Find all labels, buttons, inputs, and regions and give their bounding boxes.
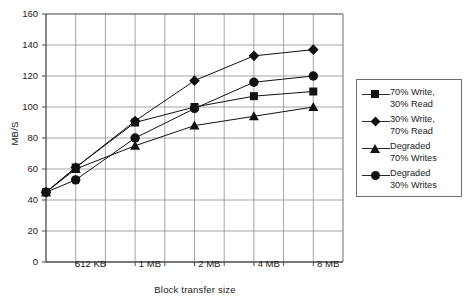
y-tick-label: 20 [10,225,38,236]
legend-item-label: Degraded70% Writes [390,141,437,164]
x-tick-label: 512 KB [63,258,119,269]
y-axis-title: MB/S [9,104,20,164]
legend-label-line2: 70% Writes [390,153,437,165]
legend-item[interactable]: 70% Write,30% Read [357,87,461,114]
legend-square-icon [362,88,390,101]
legend-box: 70% Write,30% Read30% Write,70% ReadDegr… [356,79,462,197]
line-chart: 160140120100806040200 512 KB1 MB2 MB4 MB… [0,0,471,306]
legend-label-line1: 30% Write, [390,114,435,126]
x-axis-title: Block transfer size [40,284,350,295]
legend-label-line1: Degraded [390,141,437,153]
x-tick-label: 8 MB [300,258,356,269]
legend-item-label: 70% Write,30% Read [390,87,435,110]
legend-label-line1: Degraded [390,168,437,180]
legend-label-line2: 70% Read [390,126,435,138]
x-tick-label: 2 MB [181,258,237,269]
x-tick-label: 1 MB [122,258,178,269]
axis-lines [42,14,343,266]
x-tick-label: 4 MB [241,258,297,269]
legend-circle-icon [362,169,390,182]
y-tick-label: 140 [10,39,38,50]
legend-item-label: Degraded30% Writes [390,168,437,191]
series-layer [41,44,319,197]
legend-item[interactable]: Degraded70% Writes [357,141,461,168]
legend-label-line2: 30% Read [390,99,435,111]
y-tick-label: 40 [10,194,38,205]
y-tick-label: 0 [10,256,38,267]
legend-item-label: 30% Write,70% Read [390,114,435,137]
legend-label-line2: 30% Writes [390,180,437,192]
y-tick-label: 60 [10,163,38,174]
legend-label-line1: 70% Write, [390,87,435,99]
chart-root: 160140120100806040200 512 KB1 MB2 MB4 MB… [0,0,471,306]
legend-triangle-icon [362,142,390,155]
legend-diamond-icon [362,115,390,128]
legend-item[interactable]: Degraded30% Writes [357,168,461,195]
y-tick-label: 120 [10,70,38,81]
y-tick-label: 160 [10,8,38,19]
legend-item[interactable]: 30% Write,70% Read [357,114,461,141]
